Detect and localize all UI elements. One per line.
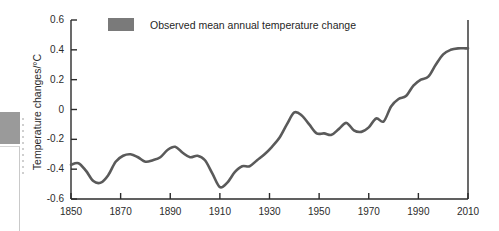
x-tick-label: 1930: [250, 207, 290, 217]
x-axis-ticks: [71, 193, 468, 199]
x-tick-label: 2010: [448, 207, 488, 217]
legend-swatch-observed: [108, 18, 134, 31]
y-axis-title: Temperature changes/°C: [31, 27, 43, 197]
x-tick-label: 1850: [51, 207, 91, 217]
y-axis-ticks: [71, 20, 77, 199]
x-tick-label: 1990: [398, 207, 438, 217]
y-tick-label: 0.6: [20, 15, 64, 25]
temperature-change-chart: 0.60.40.20-0.2-0.4-0.6 18501870189019101…: [0, 0, 499, 231]
x-tick-label: 1910: [200, 207, 240, 217]
legend-label-observed: Observed mean annual temperature change: [150, 19, 356, 31]
x-tick-label: 1870: [101, 207, 141, 217]
x-tick-label: 1950: [299, 207, 339, 217]
chart-legend: Observed mean annual temperature change: [108, 18, 356, 31]
x-tick-label: 1970: [349, 207, 389, 217]
x-tick-label: 1890: [150, 207, 190, 217]
data-line-observed-temperature: [71, 48, 468, 187]
axes: [71, 20, 468, 199]
plot-canvas: [0, 0, 499, 231]
